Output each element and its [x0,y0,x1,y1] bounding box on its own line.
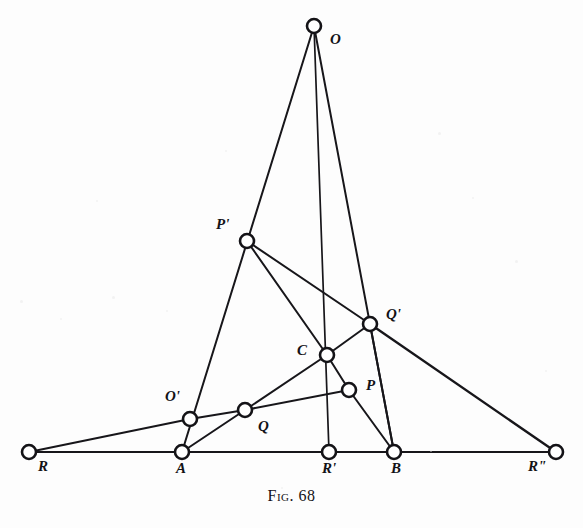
geometry-diagram [0,0,583,528]
figure-caption-prefix: Fig. [267,487,294,504]
point-label-Rp: R' [322,461,336,476]
paper-speck [438,132,441,135]
paper-speck [20,300,23,303]
paper-speck [225,150,227,152]
line-Pp-C [247,241,327,355]
figure-canvas: OP'Q'CPO'QRAR'BR" Fig. 68 [0,0,583,528]
paper-speck [430,450,432,452]
line-R-Op [29,419,190,452]
point-label-R: R [38,459,48,474]
point-node-P [342,383,356,397]
paper-speck [60,318,62,320]
point-label-P: P [366,378,375,393]
point-node-Qp [363,317,377,331]
edges-layer [29,26,556,452]
point-node-Rpp [549,445,563,459]
point-label-O: O [330,32,341,47]
point-label-Qp: Q' [386,307,401,322]
paper-speck [472,197,474,199]
paper-speck [515,260,518,263]
figure-caption-number: 68 [299,487,316,504]
point-label-Rpp: R" [528,459,546,474]
figure-caption: Fig. 68 [0,487,583,505]
line-Pp-Qp [247,241,370,324]
point-node-R [22,445,36,459]
point-label-B: B [391,461,401,476]
point-node-Rp [322,445,336,459]
nodes-layer [22,19,563,459]
point-label-C: C [297,343,307,358]
point-node-A [175,445,189,459]
point-node-O [307,19,321,33]
point-node-B [387,445,401,459]
paper-speck [112,296,115,299]
point-label-Q: Q [258,419,269,434]
line-Qp-Rpp [370,324,556,452]
point-node-C [320,348,334,362]
point-node-Q [238,403,252,417]
paper-speck [166,310,168,312]
point-label-Op: O' [165,389,180,404]
point-node-Op [183,412,197,426]
paper-speck [545,370,547,372]
point-label-A: A [176,461,186,476]
point-node-Pp [240,234,254,248]
point-label-Pp: P' [216,217,229,232]
paper-speck [96,200,98,202]
